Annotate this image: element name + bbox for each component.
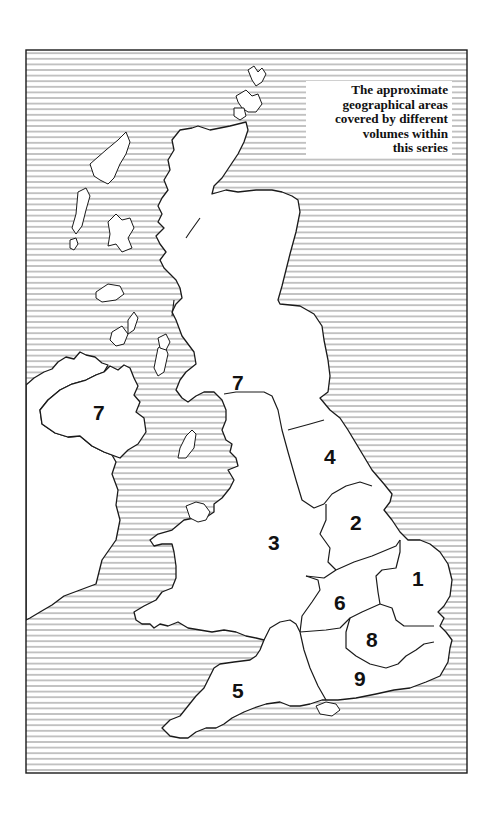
region-label-7-scotland: 7 [232, 371, 244, 394]
region-label-2: 2 [350, 511, 362, 534]
region-label-4: 4 [324, 445, 336, 468]
legend-line: geographical areas [306, 98, 448, 113]
region-label-1: 1 [412, 567, 424, 590]
legend-line: The approximate [306, 83, 448, 98]
legend-line: covered by different [306, 112, 448, 127]
region-label-6: 6 [334, 591, 346, 614]
region-label-9: 9 [354, 667, 366, 690]
region-label-5: 5 [232, 679, 244, 702]
region-label-7-northern-ireland: 7 [93, 401, 105, 424]
legend-line: volumes within [306, 127, 448, 142]
legend-box: The approximate geographical areas cover… [306, 81, 452, 158]
region-label-8: 8 [366, 628, 378, 651]
legend-line: this series [306, 141, 448, 156]
region-label-3: 3 [268, 531, 280, 554]
